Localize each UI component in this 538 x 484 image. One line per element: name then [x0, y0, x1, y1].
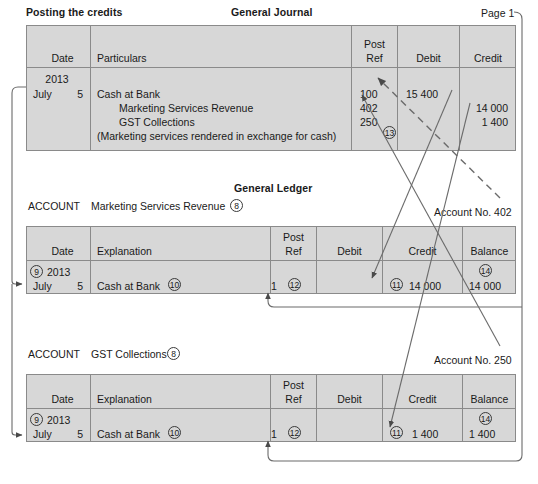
journal-line-3-particulars: GST Collections [119, 116, 195, 128]
step-marker-10-ledger-2: 10 [168, 426, 181, 439]
step-marker-10-ledger-1: 10 [168, 278, 181, 291]
journal-title: General Journal [231, 6, 312, 18]
caption-posting-the-credits: Posting the credits [26, 6, 122, 18]
step-marker-9-ledger-2: 9 [30, 413, 43, 426]
ledger-2-header-post: Post [271, 379, 316, 391]
journal-year: 2013 [31, 73, 83, 85]
step-marker-12-ledger-2: 12 [288, 426, 301, 439]
journal-line-3-credit: 1 400 [460, 116, 508, 128]
ledger-2-account-word: ACCOUNT [28, 348, 80, 360]
ledger-1-credit: 14 000 [409, 280, 441, 292]
journal-page-label: Page 1 [481, 7, 514, 19]
ledger-2-header-explanation: Explanation [97, 393, 152, 405]
step-marker-13: 13 [383, 126, 396, 139]
journal-line-4-narration: (Marketing services rendered in exchange… [97, 130, 336, 142]
step-marker-12-ledger-1: 12 [288, 278, 301, 291]
ledger-2-header-date: Date [35, 393, 90, 405]
journal-col-rule-debit [459, 26, 460, 150]
step-marker-8-ledger-1: 8 [230, 199, 243, 212]
ledger-1-postref: 1 [265, 280, 283, 292]
journal-month: July [33, 88, 52, 100]
connector-date-rail [12, 87, 26, 435]
step-marker-9-ledger-1: 9 [30, 265, 43, 278]
journal-col-rule-postref [397, 26, 398, 150]
ledger-1-header-explanation: Explanation [97, 245, 152, 257]
journal-header-particulars: Particulars [97, 52, 147, 64]
ledger-2-table: Date Explanation Post Ref Debit Credit B… [26, 374, 516, 442]
ledger-1-header-post: Post [271, 231, 316, 243]
ledger-2-postref: 1 [265, 428, 283, 440]
ledger-1-header-credit: Credit [383, 245, 462, 257]
general-journal-table: Date Particulars Post Ref Debit Credit 2… [26, 25, 516, 151]
step-marker-14-ledger-1: 14 [479, 264, 492, 277]
ledger-1-header-date: Date [35, 245, 90, 257]
journal-header-debit: Debit [398, 52, 459, 64]
ledger-2-account-no: Account No. 250 [434, 354, 512, 366]
journal-header-credit: Credit [460, 52, 516, 64]
journal-day: 5 [57, 88, 83, 100]
ledger-2-header-debit: Debit [317, 393, 382, 405]
ledger-1-table: Date Explanation Post Ref Debit Credit B… [26, 226, 516, 294]
ledger-1-header-balance: Balance [463, 245, 516, 257]
journal-line-2-particulars: Marketing Services Revenue [119, 102, 253, 114]
step-marker-8-ledger-2: 8 [167, 347, 180, 360]
ledger-2-month: July [33, 428, 52, 440]
ledger-1-month: July [33, 280, 52, 292]
ledger-1-account-word: ACCOUNT [28, 200, 80, 212]
diagram-canvas: Posting the credits General Journal Page… [0, 0, 538, 484]
ledger-1-balance: 14 000 [469, 280, 501, 292]
ledger-2-header-rule [27, 408, 515, 409]
journal-header-rule [27, 67, 515, 68]
journal-header-ref: Ref [352, 52, 397, 64]
ledger-2-header-ref: Ref [271, 393, 316, 405]
journal-line-1-postref: 100 [360, 88, 378, 100]
ledger-2-balance: 1 400 [469, 428, 495, 440]
journal-header-date: Date [35, 52, 90, 64]
journal-line-1-particulars: Cash at Bank [97, 88, 160, 100]
ledger-1-account-no: Account No. 402 [434, 206, 512, 218]
ledger-2-header-balance: Balance [463, 393, 516, 405]
step-marker-11-ledger-1: 11 [390, 278, 403, 291]
ledger-2-header-credit: Credit [383, 393, 462, 405]
journal-line-2-credit: 14 000 [460, 102, 508, 114]
ledger-2-account-name: GST Collections [91, 348, 167, 360]
journal-header-post: Post [352, 38, 397, 50]
ledger-2-explanation: Cash at Bank [97, 428, 160, 440]
step-marker-11-ledger-2: 11 [390, 426, 403, 439]
journal-line-2-postref: 402 [360, 102, 378, 114]
ledger-1-day: 5 [57, 280, 83, 292]
ledger-title: General Ledger [234, 182, 312, 194]
ledger-1-header-debit: Debit [317, 245, 382, 257]
ledger-2-year: 2013 [47, 414, 70, 426]
journal-line-1-debit: 15 400 [406, 88, 438, 100]
ledger-1-header-ref: Ref [271, 245, 316, 257]
journal-col-rule-date [90, 26, 91, 150]
ledger-2-day: 5 [57, 428, 83, 440]
ledger-1-account-name: Marketing Services Revenue [91, 200, 225, 212]
ledger-1-year: 2013 [47, 266, 70, 278]
journal-line-3-postref: 250 [360, 116, 378, 128]
step-marker-14-ledger-2: 14 [479, 412, 492, 425]
ledger-1-header-rule [27, 260, 515, 261]
ledger-2-credit: 1 400 [412, 428, 438, 440]
ledger-1-explanation: Cash at Bank [97, 280, 160, 292]
